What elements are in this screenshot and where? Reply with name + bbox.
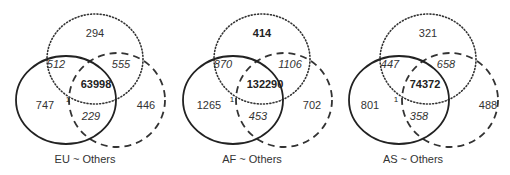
- region-all-three: 74372: [410, 78, 441, 90]
- region-dotted-dashed: 1106: [278, 58, 303, 70]
- region-small-marker: 1: [66, 95, 71, 104]
- region-solid-only: 1265: [197, 99, 221, 111]
- region-solid-dashed: 453: [249, 110, 268, 122]
- region-dotted-only: 294: [86, 27, 104, 39]
- region-dashed-only: 446: [137, 99, 155, 111]
- region-all-three: 63998: [81, 78, 112, 90]
- venn-figure: 294 512 555 63998 747 446 229 1 EU ~ Oth…: [0, 0, 510, 175]
- venn-panel-af: 414 870 1106 132290 1265 702 453 1 AF ~ …: [183, 14, 332, 165]
- region-dotted-only: 321: [419, 27, 437, 39]
- region-small-marker: 1: [230, 95, 235, 104]
- region-solid-dashed: 358: [410, 110, 429, 122]
- region-dotted-dashed: 555: [112, 58, 131, 70]
- region-dashed-only: 702: [303, 99, 321, 111]
- region-dashed-only: 488: [479, 99, 497, 111]
- region-all-three: 132290: [247, 78, 284, 90]
- venn-diagrams-svg: 294 512 555 63998 747 446 229 1 EU ~ Oth…: [0, 0, 510, 175]
- panel-caption: AF ~ Others: [222, 153, 282, 165]
- panel-caption: EU ~ Others: [55, 153, 116, 165]
- venn-panel-eu: 294 512 555 63998 747 446 229 1 EU ~ Oth…: [16, 14, 165, 165]
- region-solid-only: 747: [36, 99, 54, 111]
- region-solid-dotted: 447: [381, 58, 400, 70]
- venn-panel-as: 321 447 658 74372 801 488 358 1 AS ~ Oth…: [349, 14, 498, 165]
- region-solid-dashed: 229: [81, 110, 100, 122]
- region-solid-only: 801: [361, 99, 379, 111]
- region-solid-dotted: 870: [214, 58, 233, 70]
- region-small-marker: 1: [394, 95, 399, 104]
- panel-caption: AS ~ Others: [383, 153, 444, 165]
- region-dotted-only: 414: [253, 27, 272, 39]
- region-dotted-dashed: 658: [437, 58, 456, 70]
- region-solid-dotted: 512: [47, 58, 65, 70]
